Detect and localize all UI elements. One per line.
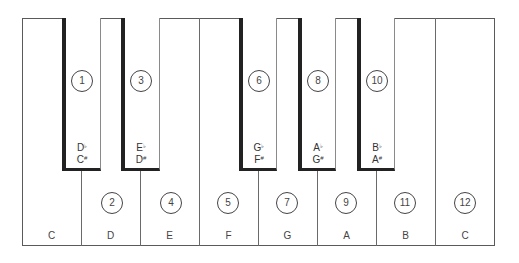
note-label-c-high: C (435, 230, 495, 241)
accidental-label-1: D♭ C# (67, 141, 97, 165)
key-number-4: 4 (160, 192, 182, 214)
flat-icon: ♭ (84, 143, 87, 149)
key-number-12: 12 (454, 192, 476, 214)
key-number-5: 5 (217, 192, 239, 214)
key-number-3: 3 (130, 70, 152, 92)
flat-name: E (136, 142, 143, 153)
key-number-10: 10 (366, 70, 388, 92)
sharp-icon: # (379, 155, 382, 161)
flat-name: B (372, 142, 379, 153)
flat-icon: ♭ (320, 143, 323, 149)
sharp-name: D (136, 154, 143, 165)
sharp-icon: # (84, 155, 87, 161)
sharp-icon: # (143, 155, 146, 161)
accidental-label-6: G♭ F# (244, 141, 274, 165)
key-number-8: 8 (307, 70, 329, 92)
key-number-9: 9 (335, 192, 357, 214)
sharp-name: A (372, 154, 379, 165)
note-label-f: F (199, 230, 258, 241)
sharp-icon: # (260, 155, 263, 161)
accidental-label-3: E♭ D# (126, 141, 156, 165)
note-label-g: G (258, 230, 317, 241)
key-number-11: 11 (394, 192, 416, 214)
note-label-c: C (22, 230, 81, 241)
accidental-label-8: A♭ G# (303, 141, 333, 165)
sharp-name: C (77, 154, 84, 165)
flat-icon: ♭ (261, 143, 264, 149)
divider-e-f (199, 18, 200, 246)
flat-icon: ♭ (379, 143, 382, 149)
flat-icon: ♭ (143, 143, 146, 149)
note-label-a: A (317, 230, 376, 241)
note-label-d: D (81, 230, 140, 241)
note-label-e: E (140, 230, 199, 241)
key-number-1: 1 (71, 70, 93, 92)
accidental-label-10: B♭ A# (362, 141, 392, 165)
key-number-2: 2 (101, 192, 123, 214)
flat-name: A (313, 142, 320, 153)
key-number-7: 7 (276, 192, 298, 214)
note-label-b: B (376, 230, 435, 241)
key-number-6: 6 (248, 70, 270, 92)
sharp-icon: # (320, 155, 323, 161)
divider-b-c (435, 18, 436, 246)
